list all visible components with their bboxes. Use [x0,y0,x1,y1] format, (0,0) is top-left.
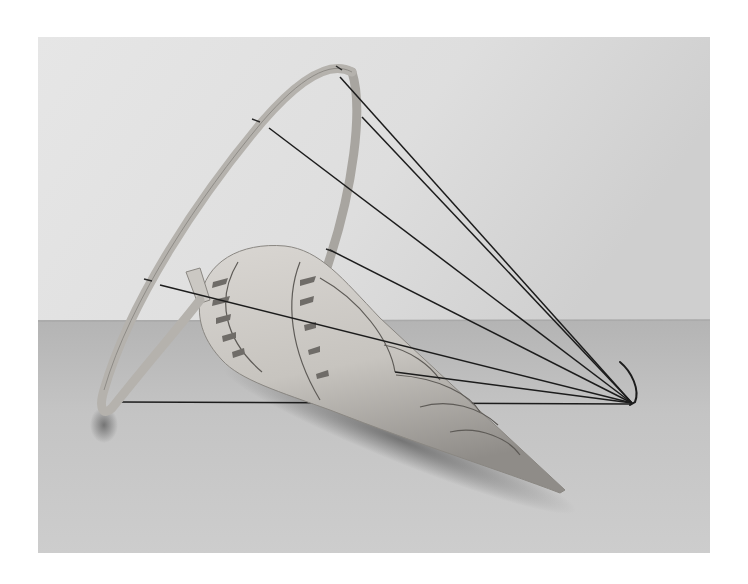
sculpture-photograph [38,37,710,553]
wall [38,37,710,322]
